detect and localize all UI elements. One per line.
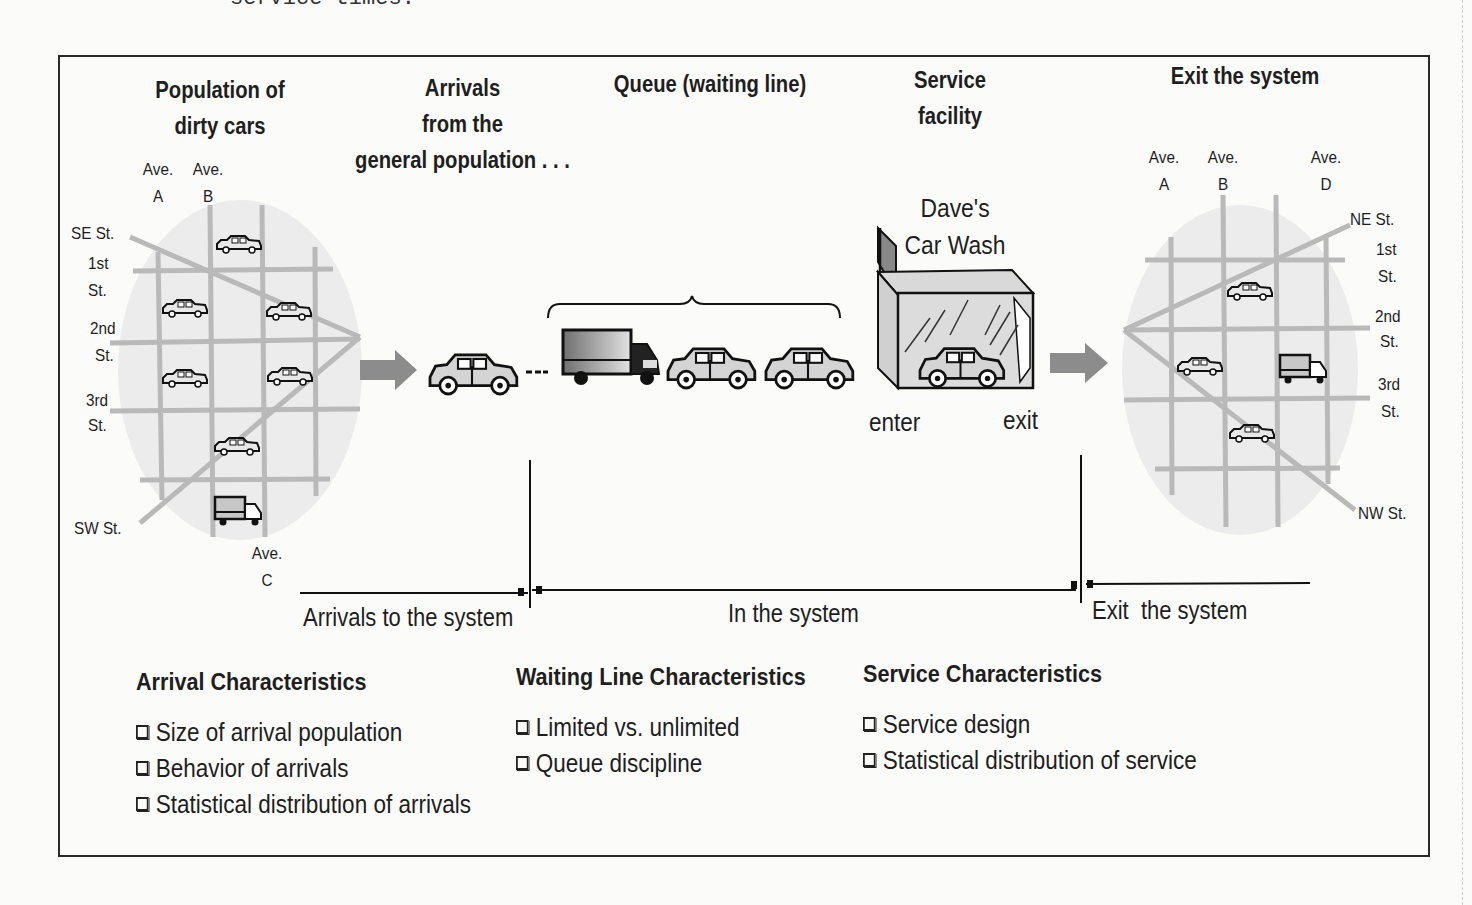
service-heading: Service facility <box>888 62 1011 134</box>
left-avenue-b-label: Ave.B <box>189 156 227 210</box>
right-avenue-b-label: Ave.B <box>1204 144 1242 198</box>
left-street-map <box>110 200 362 540</box>
left-avenue-a-label: Ave.A <box>139 156 177 210</box>
list-item: Service design <box>863 706 1197 742</box>
waiting-line-characteristics-title: Waiting Line Characteristics <box>516 663 806 691</box>
exit-label: exit <box>1003 406 1038 435</box>
left-street-1st-st: St. <box>88 277 107 304</box>
right-street-3rd-st: St. <box>1381 398 1400 425</box>
left-street-1st: 1st <box>88 250 108 277</box>
checkbox-square-icon <box>136 725 149 739</box>
right-street-ne: NE St. <box>1350 206 1394 233</box>
right-avenue-a-label: Ave.A <box>1145 144 1183 198</box>
left-street-sw: SW St. <box>74 515 122 542</box>
checkbox-square-icon <box>136 761 149 775</box>
list-item: Limited vs. unlimited <box>516 709 806 745</box>
timeline-in-system-label: In the system <box>728 599 859 628</box>
service-characteristics-title: Service Characteristics <box>863 660 1197 688</box>
car-wash-name: Dave's Car Wash <box>889 190 1021 264</box>
enter-label: enter <box>869 408 920 437</box>
arrivals-heading: Arrivals from the general population . .… <box>346 70 579 178</box>
left-street-2nd-st: St. <box>95 342 114 369</box>
right-street-3rd: 3rd <box>1378 371 1400 398</box>
checkbox-square-icon <box>516 720 529 734</box>
left-street-3rd: 3rd <box>86 387 108 414</box>
arrival-characteristics-title: Arrival Characteristics <box>136 668 471 696</box>
timeline-exit-label: Exit the system <box>1092 596 1247 625</box>
right-street-nw: NW St. <box>1358 500 1406 527</box>
right-street-2nd: 2nd <box>1375 303 1401 330</box>
right-street-2nd-st: St. <box>1380 328 1399 355</box>
waiting-line-characteristics: Waiting Line Characteristics Limited vs.… <box>516 663 838 781</box>
list-item: Size of arrival population <box>136 714 471 750</box>
arrival-characteristics: Arrival Characteristics Size of arrival … <box>136 668 508 822</box>
arrow-icon <box>1050 343 1108 383</box>
checkbox-square-icon <box>136 797 149 811</box>
service-characteristics: Service Characteristics Service design S… <box>863 660 1234 778</box>
list-item: Behavior of arrivals <box>136 750 471 786</box>
list-item: Queue discipline <box>516 745 806 781</box>
arrow-icon <box>360 350 417 390</box>
checkbox-square-icon <box>516 756 529 770</box>
right-street-map <box>1122 195 1370 535</box>
right-street-1st: 1st <box>1376 236 1396 263</box>
timeline-arrivals-label: Arrivals to the system <box>303 603 513 632</box>
left-street-3rd-st: St. <box>88 412 107 439</box>
exit-heading: Exit the system <box>1153 58 1338 94</box>
left-street-2nd: 2nd <box>90 315 116 342</box>
left-street-se: SE St. <box>71 220 114 247</box>
list-item: Statistical distribution of arrivals <box>136 786 471 822</box>
checkbox-square-icon <box>863 753 876 767</box>
left-avenue-c-label: Ave.C <box>248 540 286 594</box>
right-avenue-d-label: Ave.D <box>1307 144 1345 198</box>
right-street-1st-st: St. <box>1378 263 1397 290</box>
checkbox-square-icon <box>863 717 876 731</box>
queue-heading: Queue (waiting line) <box>604 66 815 102</box>
list-item: Statistical distribution of service <box>863 742 1197 778</box>
population-heading: Population of dirty cars <box>132 72 308 144</box>
